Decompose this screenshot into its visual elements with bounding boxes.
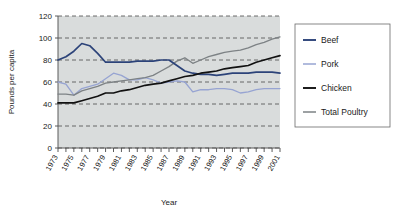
x-tick-label-1979: 1979 [91,154,107,173]
legend-label-chicken: Chicken [321,83,352,93]
x-tick-label-1991: 1991 [186,154,202,173]
y-tick-label-0: 0 [48,144,53,153]
x-axis-ticks [58,148,280,152]
y-tick-label-80: 80 [43,56,52,65]
chart-canvas: 020406080100120 197319751977197919811983… [0,0,394,212]
x-tick-label-1983: 1983 [123,154,139,173]
legend-label-pork: Pork [321,59,339,69]
x-tick-label-2001: 2001 [266,154,282,173]
x-tick-label-1973: 1973 [44,154,60,173]
x-tick-label-1989: 1989 [170,154,186,173]
x-tick-label-1997: 1997 [234,153,250,172]
y-tick-label-20: 20 [43,122,52,131]
y-tick-label-40: 40 [43,100,52,109]
line-chart-figure: 020406080100120 197319751977197919811983… [0,0,394,212]
x-tick-label-1975: 1975 [59,154,75,173]
x-tick-label-1987: 1987 [155,154,171,173]
x-tick-label-1993: 1993 [202,154,218,173]
legend-label-beef: Beef [321,35,339,45]
y-axis-ticks: 020406080100120 [39,12,58,153]
x-axis-title: Year [161,198,178,207]
x-tick-label-1999: 1999 [250,154,266,173]
x-tick-label-1981: 1981 [107,154,123,173]
y-tick-label-60: 60 [43,78,52,87]
y-axis-title: Pounds per capita [7,49,16,114]
y-tick-label-120: 120 [39,12,53,21]
y-tick-label-100: 100 [39,34,53,43]
x-axis-tick-labels: 1973197519771979198119831985198719891991… [44,153,282,172]
x-tick-label-1995: 1995 [218,154,234,173]
x-tick-label-1977: 1977 [75,154,91,173]
x-tick-label-1985: 1985 [139,154,155,173]
legend-label-total-poultry: Total Poultry [321,107,369,117]
